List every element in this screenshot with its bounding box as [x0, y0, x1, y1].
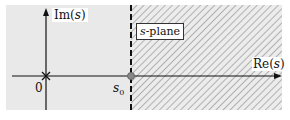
real-axis-label: Re(s)	[252, 57, 286, 71]
s0-label: s0	[113, 81, 124, 97]
s-plane-label: s-plane	[136, 23, 184, 40]
diagram-graphics	[0, 0, 290, 120]
origin-label: 0	[35, 81, 43, 95]
imag-axis-label: Im(s)	[52, 8, 88, 22]
s-plane-diagram: Im(s) Re(s) 0 s0 s-plane	[0, 0, 290, 120]
s0-point-icon	[128, 73, 135, 80]
